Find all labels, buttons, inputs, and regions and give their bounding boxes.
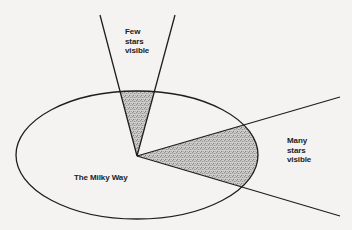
many-stars-line-1: Many — [287, 136, 311, 146]
many-stars-line-2: stars — [287, 146, 311, 156]
few-stars-line-2: stars — [125, 37, 149, 47]
many-stars-label: Many stars visible — [287, 136, 311, 165]
milky-way-label: The Milky Way — [74, 173, 128, 183]
milky-way-diagram — [0, 0, 352, 230]
many-stars-line-3: visible — [287, 155, 311, 165]
few-stars-line-1: Few — [125, 27, 149, 37]
few-stars-line-3: visible — [125, 46, 149, 56]
few-stars-label: Few stars visible — [125, 27, 149, 56]
